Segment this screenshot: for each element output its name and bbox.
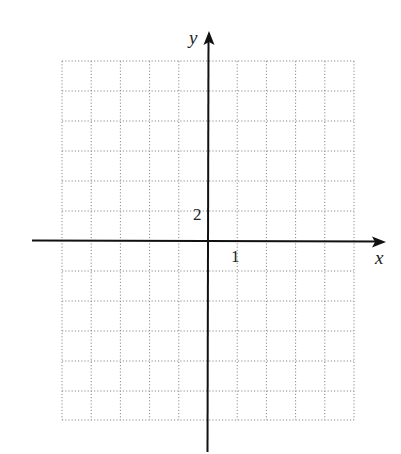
x-tick-label: 1 <box>231 247 240 266</box>
coordinate-plane: y x 2 1 <box>0 0 401 454</box>
y-axis-label: y <box>187 27 198 48</box>
x-axis-label: x <box>374 247 384 268</box>
y-tick-label: 2 <box>193 205 202 224</box>
